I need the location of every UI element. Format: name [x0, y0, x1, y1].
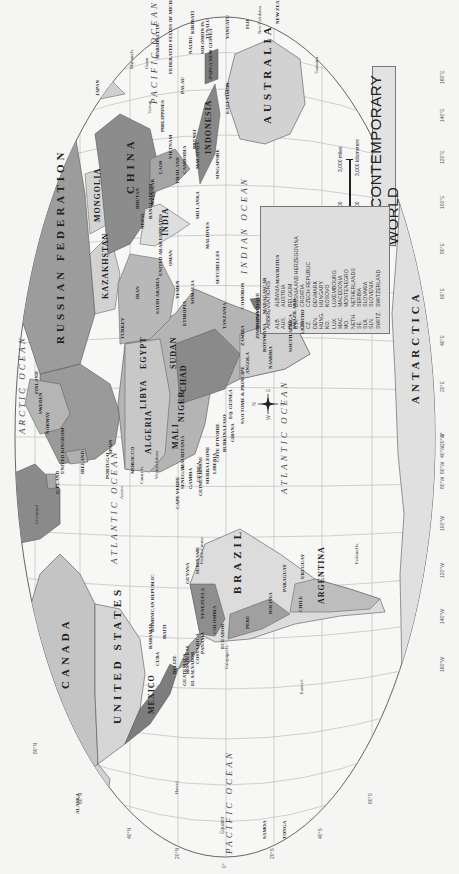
- lat-label-80n: 80°N: [33, 743, 38, 754]
- label-bolivia: BOLIVIA: [268, 592, 273, 614]
- label-nauru: NAURU: [188, 36, 193, 54]
- label-cuba: CUBA: [155, 652, 160, 666]
- label-vietnam: VIETNAM: [168, 135, 173, 159]
- label-sudan: SUDAN: [170, 336, 178, 369]
- label-palau: PALAU: [180, 77, 185, 94]
- lat-label-60n: 60°N: [78, 793, 83, 804]
- label-libya: LIBYA: [140, 379, 148, 409]
- label-taiwan: Taiwan: [148, 101, 153, 114]
- lat-label-0: 0°: [222, 863, 227, 868]
- label-senegal: SENEGAL: [180, 465, 185, 489]
- label-sri-lanka: SRI LANKA: [195, 191, 200, 219]
- label-costa-rica: COSTA RICA: [195, 633, 200, 664]
- label-micronesia: FEDERATED STATES OF MICRONESIA: [168, 0, 173, 74]
- label-oman: OMAN: [168, 250, 173, 266]
- lat-label-40n: 40°N: [127, 828, 132, 839]
- label-sao-tome: SAO TOME & PRINCIPE: [240, 367, 245, 424]
- label-paraguay: PARAGUAY: [282, 564, 287, 592]
- label-sweden: SWEDEN: [38, 392, 43, 414]
- lon-label-80w: 80°W: [440, 477, 445, 489]
- label-mexico: MEXICO: [148, 674, 156, 714]
- label-tuvalu: TUVALU: [205, 19, 210, 39]
- label-guinea-bissau: GUINEA-BISSAU: [198, 456, 203, 496]
- label-bhutan: BHUTAN: [135, 188, 140, 209]
- antarctica-shape: [392, 0, 459, 874]
- label-ethiopia: ETHIOPIA: [182, 301, 187, 326]
- label-kiribati: KIRIBATI: [190, 11, 195, 34]
- label-saudi-arabia: SAUDI ARABIA: [155, 278, 160, 314]
- label-yemen: YEMEN: [175, 280, 180, 299]
- label-venezuela: VENEZUELA: [200, 588, 205, 619]
- label-mariana: Mariana Is.: [130, 49, 135, 70]
- label-algeria: ALGERIA: [145, 410, 153, 454]
- label-iceland: ICELAND: [55, 471, 60, 494]
- label-cambodia: CAMBODIA: [182, 146, 187, 174]
- equator-label: Equator: [220, 816, 225, 834]
- label-burkina-faso: BURKINA FASO: [222, 414, 227, 452]
- label-india: INDIA: [162, 207, 170, 236]
- label-haiti: HAITI: [162, 624, 167, 639]
- label-hawaii: Hawaii: [175, 781, 180, 794]
- label-el-salvador: EL SALVADOR: [190, 651, 195, 686]
- label-tonga: TONGA: [282, 821, 287, 839]
- label-niger: NIGER: [178, 391, 186, 422]
- label-ghana: GHANA: [230, 423, 235, 442]
- label-iran: IRAN: [135, 286, 140, 299]
- label-uruguay: URUGUAY: [300, 554, 305, 579]
- lon-label-120w: 120°W: [440, 563, 445, 578]
- label-china: CHINA: [125, 137, 136, 194]
- label-argentina: ARGENTINA: [318, 546, 326, 604]
- new-zealand-shape: [280, 6, 320, 24]
- label-tasmania: Tasmania: [315, 57, 320, 74]
- label-morocco: MOROCCO: [130, 447, 135, 474]
- label-zimbabwe: ZIMBABWE: [255, 310, 260, 339]
- ocean-label-indian: INDIAN OCEAN: [240, 176, 249, 274]
- label-united-kingdom: UNITED KINGDOM: [60, 428, 65, 474]
- label-eq-guinea: EQ. GUINEA: [228, 389, 233, 419]
- label-cote-divoire: COTE D'IVOIRE: [215, 423, 220, 462]
- lon-label-80e: 80°E: [440, 243, 445, 254]
- ocean-label-pacific-east: PACIFIC OCEAN: [225, 750, 234, 854]
- lat-label-20n: 20°N: [175, 848, 180, 859]
- label-vanuatu: VANUATU: [225, 15, 230, 39]
- lat-label-60s: 60°S: [368, 793, 373, 804]
- label-belize: BELIZE: [172, 655, 177, 674]
- lon-label-140e: 140°E: [440, 108, 445, 122]
- lon-label-100e: 100°E: [440, 195, 445, 209]
- label-brazil: BRAZIL: [232, 528, 243, 594]
- lon-label-60w: 60°W: [440, 462, 445, 474]
- label-peru: PERU: [245, 615, 250, 629]
- label-russia: RUSSIAN FEDERATION: [55, 148, 66, 344]
- label-antarctica: ANTARCTICA: [410, 290, 421, 404]
- abbr-row: SWITZ.SWITZERLAND: [375, 211, 381, 329]
- label-kazakhstan: KAZAKHSTAN: [102, 233, 110, 299]
- label-namibia: NAMIBIA: [268, 346, 273, 369]
- label-somalia: SOMALIA: [190, 280, 195, 304]
- scale-miles-3000: 3,000 miles: [338, 146, 343, 172]
- label-botswana: BOTSWANA: [262, 323, 267, 352]
- label-east-timor: EAST TIMOR: [225, 82, 230, 114]
- label-norway: NORWAY: [45, 412, 50, 434]
- compass-s: S: [280, 403, 285, 406]
- label-angola: ANGOLA: [245, 352, 250, 374]
- label-philippines: PHILIPPINES: [160, 100, 165, 132]
- label-brunei: BRUNEI: [192, 130, 197, 149]
- label-singapore: SINGAPORE: [215, 149, 220, 179]
- label-new-caledonia: New Caledonia: [258, 6, 263, 34]
- label-sierra-leone: SIERRA LEONE: [205, 447, 210, 484]
- label-lesotho: LESOTHO: [300, 310, 305, 334]
- lon-label-60e: 60°E: [440, 288, 445, 299]
- label-panama: PANAMA: [200, 632, 205, 654]
- label-colombia: COLOMBIA: [212, 606, 217, 634]
- label-portugal: PORTUGAL: [105, 451, 110, 479]
- label-mauritania: MAURITANIA: [180, 436, 185, 469]
- label-turkey: TURKEY: [120, 318, 125, 339]
- ocean-label-arctic: ARCTIC OCEAN: [18, 335, 27, 434]
- label-zambia: ZAMBIA: [240, 325, 245, 346]
- lon-label-0: 0°: [440, 432, 445, 437]
- label-indonesia: INDONESIA: [205, 100, 213, 154]
- world-map: THE CONTEMPORARY WORLD 0 1,500 3,000 mil…: [0, 0, 459, 874]
- scale-tick: [346, 159, 353, 160]
- label-comoros: COMOROS: [240, 283, 245, 309]
- label-united-states: UNITED STATES: [112, 586, 123, 724]
